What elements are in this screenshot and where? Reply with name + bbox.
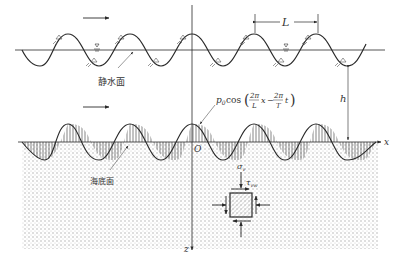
still-water-label: 静水面 xyxy=(98,76,125,87)
svg-text:2π: 2π xyxy=(249,92,259,100)
svg-text:2π: 2π xyxy=(273,92,283,100)
pressure-formula: p0 cos ( 2π L x − 2π T t ) xyxy=(216,92,295,110)
z-axis-label: z xyxy=(183,244,189,254)
svg-text:−: − xyxy=(267,96,274,105)
wave-seabed-diagram: L 静水面 h x z O p0 cos ( 2π L x − 2π T t )… xyxy=(0,0,395,264)
x-axis-label: x xyxy=(384,137,389,147)
svg-text:x: x xyxy=(261,96,266,105)
svg-text:p0: p0 xyxy=(216,95,226,106)
origin-label: O xyxy=(194,144,202,154)
still-water-leader xyxy=(118,52,133,68)
seabed-soil-region xyxy=(22,142,378,249)
svg-text:): ) xyxy=(290,92,295,108)
svg-text:L: L xyxy=(251,102,257,110)
pressure-leader xyxy=(200,105,215,124)
svg-text:(: ( xyxy=(244,92,249,108)
svg-text:t: t xyxy=(285,96,289,105)
svg-text:cos: cos xyxy=(226,95,241,105)
wavelength-label: L xyxy=(281,16,289,29)
depth-label: h xyxy=(340,93,346,104)
seabed-label: 海底面 xyxy=(90,176,114,186)
svg-text:T: T xyxy=(276,102,282,110)
